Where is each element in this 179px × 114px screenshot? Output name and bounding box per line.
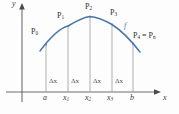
point-label-P2: P2	[85, 3, 92, 11]
tick-label-x3: x3	[107, 94, 113, 102]
point-label-P0: P0	[31, 28, 38, 36]
marker-P3	[111, 23, 113, 25]
marker-P4	[132, 43, 134, 45]
delta-x-label-2: Δx	[71, 78, 79, 85]
tick-label-b: b	[130, 94, 134, 102]
point-label-P4: P4 = Pn	[133, 32, 156, 40]
marker-P1	[67, 25, 69, 27]
y-axis-arrow	[19, 3, 25, 10]
figure-canvas: y x P0 P1 P2 P3 P4 = Pn f Δx Δx Δx Δx a …	[0, 0, 179, 114]
x-axis-label: x	[163, 94, 167, 102]
function-label: f	[124, 22, 126, 30]
delta-x-label-1: Δx	[49, 78, 57, 85]
x-axis-arrow	[154, 89, 161, 95]
point-label-P3: P3	[110, 9, 117, 17]
delta-x-label-3: Δx	[93, 78, 101, 85]
x-axis	[6, 89, 161, 95]
y-axis-label: y	[12, 0, 16, 8]
point-label-P1: P1	[57, 12, 64, 20]
tick-label-a: a	[43, 94, 47, 102]
tick-label-x1: x1	[63, 94, 69, 102]
marker-P0	[45, 44, 47, 46]
tick-label-x2: x2	[85, 94, 91, 102]
marker-P2	[89, 16, 91, 18]
delta-x-label-4: Δx	[115, 78, 123, 85]
y-axis	[19, 3, 25, 102]
